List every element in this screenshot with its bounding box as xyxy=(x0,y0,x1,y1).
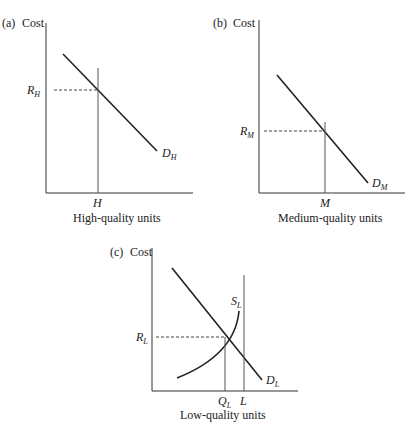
panel-c: (c) Cost RL SL DL QL L Low-quality units xyxy=(110,245,298,422)
a-x-label: High-quality units xyxy=(73,211,161,225)
b-m-tick: M xyxy=(319,196,331,210)
a-h-tick: H xyxy=(92,196,103,210)
b-r-label: RM xyxy=(239,124,255,140)
b-d-label: DM xyxy=(371,176,389,192)
panel-a: (a) Cost RH DH H High-quality units xyxy=(2,16,193,225)
b-cost-label: Cost xyxy=(233,16,256,30)
a-panel-label: (a) xyxy=(2,16,15,30)
diagram: (a) Cost RH DH H High-quality units (b) … xyxy=(0,0,416,438)
c-s-label: SL xyxy=(231,294,242,310)
b-x-label: Medium-quality units xyxy=(278,211,383,225)
a-demand-line xyxy=(63,54,157,151)
c-r-label: RL xyxy=(135,330,148,346)
panel-b: (b) Cost RM DM M Medium-quality units xyxy=(213,16,405,225)
c-supply-curve xyxy=(177,311,239,378)
c-panel-label: (c) xyxy=(110,245,123,259)
c-cost-label: Cost xyxy=(130,245,153,259)
a-d-label: DH xyxy=(161,146,178,162)
a-r-label: RH xyxy=(26,83,41,99)
b-panel-label: (b) xyxy=(213,16,227,30)
c-l-tick: L xyxy=(239,394,247,408)
c-d-label: DL xyxy=(265,373,280,389)
b-demand-line xyxy=(277,75,368,183)
c-demand-line xyxy=(172,268,262,380)
a-cost-label: Cost xyxy=(22,16,45,30)
c-x-label: Low-quality units xyxy=(180,408,266,422)
